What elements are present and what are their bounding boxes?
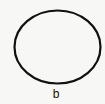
- figure-label: b: [0, 88, 105, 100]
- ellipse-shape: [15, 11, 101, 84]
